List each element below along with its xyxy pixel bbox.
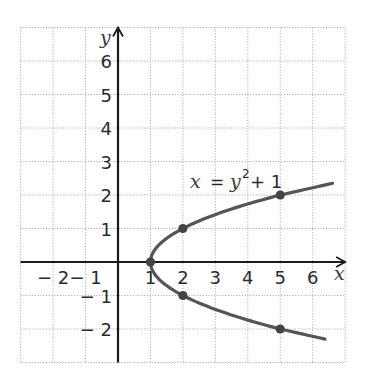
y-tick-label: 4	[101, 118, 112, 139]
y-tick-label: 3	[101, 152, 112, 173]
data-point	[146, 257, 155, 266]
svg-text:2: 2	[242, 167, 250, 181]
parabola-chart: − 2− 1123456− 2− 1123456 y x x = y 2 + 1	[0, 0, 368, 379]
y-tick-label: 6	[101, 51, 112, 72]
x-tick-label: 6	[307, 267, 318, 288]
y-tick-label: 5	[101, 85, 112, 106]
y-axis-label: y	[99, 26, 111, 48]
data-point	[276, 324, 285, 333]
x-tick-label: 3	[210, 267, 221, 288]
x-axis-label: x	[334, 262, 345, 284]
x-tick-label: 1	[145, 267, 156, 288]
grid	[21, 28, 346, 363]
x-tick-label: 5	[275, 267, 286, 288]
y-tick-label: 2	[101, 185, 112, 206]
equation-label: x = y 2 + 1	[190, 167, 282, 192]
data-point	[178, 291, 187, 300]
svg-text:+ 1: + 1	[250, 171, 282, 192]
y-tick-label: − 1	[80, 286, 112, 307]
y-tick-label: − 2	[80, 319, 112, 340]
data-point	[178, 224, 187, 233]
svg-text:x: x	[190, 170, 201, 192]
x-tick-label: 2	[177, 267, 188, 288]
svg-text:y: y	[229, 170, 241, 192]
x-tick-label: 4	[242, 267, 253, 288]
svg-text:=: =	[210, 172, 224, 192]
x-tick-label: − 2	[37, 267, 69, 288]
y-tick-label: 1	[101, 219, 112, 240]
